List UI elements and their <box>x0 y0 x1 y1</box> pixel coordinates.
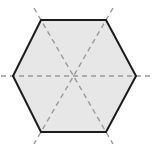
hexagon-diagram <box>0 0 159 152</box>
figure-canvas <box>0 0 159 152</box>
